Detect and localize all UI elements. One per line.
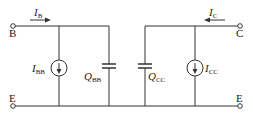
current-ib-label: IB	[34, 7, 42, 20]
terminal-e-right-label: E	[236, 93, 243, 104]
source-icc-label: ICC	[205, 63, 218, 76]
capacitor-qcc-label: QCC	[148, 71, 165, 84]
source-ibb-label: IBB	[32, 63, 45, 76]
terminal-c-label: C	[236, 28, 243, 39]
circuit-diagram: B C E E IB IC IBB ICC QBB QCC	[0, 0, 253, 121]
current-ic-label: IC	[209, 7, 217, 20]
terminal-e-left-label: E	[9, 93, 16, 104]
terminal-b-label: B	[9, 28, 16, 39]
capacitor-qbb-label: QBB	[84, 71, 101, 84]
